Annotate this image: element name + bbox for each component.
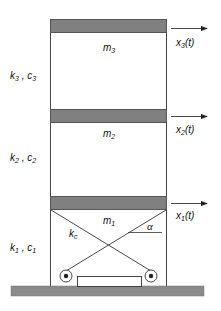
shear-frame-diagram: m3 m2 m1 x3(t) x2(t) x1(t) k3 , c3 k2 , … [0, 0, 221, 311]
slab-floor-3 [51, 20, 167, 33]
displacement-label-x1: x1(t) [175, 210, 194, 222]
stiffness-damping-label-1: k1 , c1 [10, 242, 36, 254]
pulley-left-icon [60, 270, 72, 282]
brace-stiffness-label: kc [69, 228, 78, 240]
brace-angle-label: α [147, 220, 153, 232]
displacement-label-x3: x3(t) [175, 37, 194, 49]
mass-label-m1: m1 [103, 215, 115, 227]
pulley-right-icon [145, 270, 157, 282]
stiffness-damping-label-3: k3 , c3 [10, 70, 36, 82]
slab-floor-2 [51, 110, 167, 123]
brace-line-left [51, 210, 151, 271]
displacement-label-x2: x2(t) [175, 124, 194, 136]
mass-label-m3: m3 [103, 42, 115, 54]
damper-block [78, 277, 142, 287]
slab-floor-1 [51, 197, 167, 210]
stiffness-damping-label-2: k2 , c2 [10, 152, 36, 164]
ground [11, 286, 204, 296]
mass-label-m2: m2 [103, 128, 115, 140]
